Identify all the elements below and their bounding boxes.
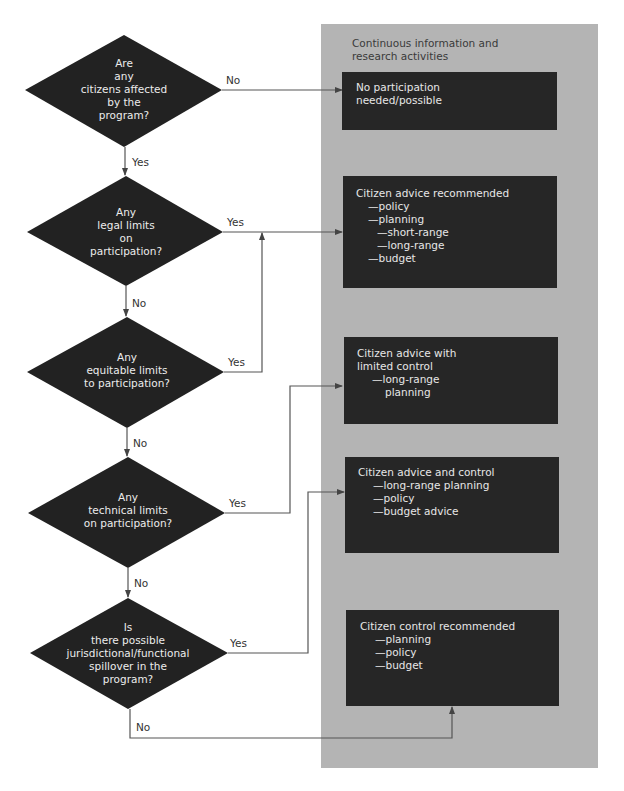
- connector-d5-yes: [228, 492, 344, 653]
- d3-no-label: No: [133, 437, 147, 449]
- connector-d4-yes: [225, 386, 342, 513]
- decision-1-line: Are: [44, 57, 204, 70]
- decision-4-line: Any: [48, 491, 208, 504]
- decision-3-text: Any equitable limits to participation?: [47, 351, 207, 390]
- decision-3-line: equitable limits: [47, 364, 207, 377]
- d1-no-label: No: [226, 74, 240, 86]
- outcome-3-item: planning: [357, 386, 558, 399]
- d3-yes-label: Yes: [228, 356, 245, 368]
- decision-1-line: by the: [44, 96, 204, 109]
- decision-5-text: Is there possible jurisdictional/functio…: [48, 621, 208, 686]
- outcome-citizen-control-recommended: Citizen control recommended —planning —p…: [346, 610, 559, 706]
- outcome-4-title: Citizen advice and control: [358, 466, 559, 479]
- outcome-citizen-advice-and-control: Citizen advice and control —long-range p…: [345, 457, 559, 553]
- outcome-2-subitem: —long-range: [356, 239, 557, 252]
- decision-2-line: participation?: [46, 245, 206, 258]
- outcome-5-title: Citizen control recommended: [360, 620, 559, 633]
- decision-1-line: citizens affected: [44, 83, 204, 96]
- outcome-4-item: —long-range planning: [358, 479, 559, 492]
- decision-5-line: spillover in the: [48, 660, 208, 673]
- decision-3-line: to participation?: [47, 377, 207, 390]
- d5-no-label: No: [136, 721, 150, 733]
- d2-yes-label: Yes: [227, 216, 244, 228]
- d2-no-label: No: [132, 297, 146, 309]
- outcome-citizen-advice-limited-control: Citizen advice with limited control —lon…: [344, 337, 558, 424]
- outcome-3-item: —long-range: [357, 373, 558, 386]
- decision-5-line: jurisdictional/functional: [48, 647, 208, 660]
- outcome-5-item: —policy: [360, 646, 559, 659]
- outcome-3-title: Citizen advice with: [357, 347, 558, 360]
- connector-d5-no: [130, 707, 452, 738]
- decision-2-line: legal limits: [46, 219, 206, 232]
- decision-2-text: Any legal limits on participation?: [46, 206, 206, 258]
- decision-4-line: technical limits: [48, 504, 208, 517]
- decision-2-line: Any: [46, 206, 206, 219]
- outcome-5-item: —budget: [360, 659, 559, 672]
- decision-1-text: Are any citizens affected by the program…: [44, 57, 204, 122]
- d5-yes-label: Yes: [230, 637, 247, 649]
- outcome-4-item: —policy: [358, 492, 559, 505]
- outcome-2-subitem: —short-range: [356, 226, 557, 239]
- outcome-citizen-advice-recommended: Citizen advice recommended —policy —plan…: [343, 176, 557, 288]
- d4-no-label: No: [134, 577, 148, 589]
- outcome-2-item: —planning: [356, 213, 557, 226]
- decision-2-line: on: [46, 232, 206, 245]
- outcome-5-item: —planning: [360, 633, 559, 646]
- d1-yes-label: Yes: [132, 156, 149, 168]
- d4-yes-label: Yes: [229, 497, 246, 509]
- outcome-2-item: —budget: [356, 252, 557, 265]
- decision-4-line: on participation?: [48, 517, 208, 530]
- decision-1-line: program?: [44, 109, 204, 122]
- decision-3-line: Any: [47, 351, 207, 364]
- outcome-2-title: Citizen advice recommended: [356, 187, 557, 200]
- outcome-1-title: needed/possible: [356, 94, 557, 107]
- decision-1-line: any: [44, 70, 204, 83]
- decision-5-line: there possible: [48, 634, 208, 647]
- outcome-3-title: limited control: [357, 360, 558, 373]
- outcome-1-title: No participation: [356, 81, 557, 94]
- decision-5-line: program?: [48, 673, 208, 686]
- outcome-2-item: —policy: [356, 200, 557, 213]
- outcome-4-item: —budget advice: [358, 505, 559, 518]
- outcome-no-participation: No participation needed/possible: [342, 72, 557, 130]
- decision-5-line: Is: [48, 621, 208, 634]
- flowchart: Continuous information and research acti…: [0, 0, 624, 791]
- connector-d3-yes: [224, 233, 262, 372]
- decision-4-text: Any technical limits on participation?: [48, 491, 208, 530]
